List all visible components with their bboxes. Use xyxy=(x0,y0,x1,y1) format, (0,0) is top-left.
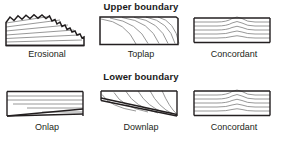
panel-label-toplap: Toplap xyxy=(96,49,186,59)
upper-boundary-title: Upper boundary xyxy=(0,1,282,12)
panel-label-onlap: Onlap xyxy=(2,122,92,132)
panel-onlap: Onlap xyxy=(2,85,92,135)
downlap-base xyxy=(101,101,177,117)
downlap-diagram xyxy=(96,85,186,123)
panel-erosional: Erosional xyxy=(2,12,92,62)
concordant-upper-reflectors xyxy=(194,17,270,38)
seismic-termination-figure: Upper boundary Erosional xyxy=(0,0,282,148)
concordant-lower-diagram xyxy=(189,85,279,123)
panel-label-concordant-upper: Concordant xyxy=(189,49,279,59)
lower-boundary-title: Lower boundary xyxy=(0,71,282,82)
concordant-upper-diagram xyxy=(189,12,279,50)
toplap-reflectors xyxy=(101,17,179,44)
concordant-lower-reflectors xyxy=(194,90,270,111)
panel-downlap: Downlap xyxy=(96,85,186,135)
panel-concordant-upper: Concordant xyxy=(189,12,279,62)
toplap-diagram xyxy=(96,12,186,50)
panel-label-downlap: Downlap xyxy=(96,122,186,132)
panel-concordant-lower: Concordant xyxy=(189,85,279,135)
panel-label-erosional: Erosional xyxy=(2,49,92,59)
downlap-lower-boundary xyxy=(101,98,177,115)
panel-toplap: Toplap xyxy=(96,12,186,62)
erosional-diagram xyxy=(2,12,92,50)
onlap-diagram xyxy=(2,85,92,123)
panel-label-concordant-lower: Concordant xyxy=(189,122,279,132)
